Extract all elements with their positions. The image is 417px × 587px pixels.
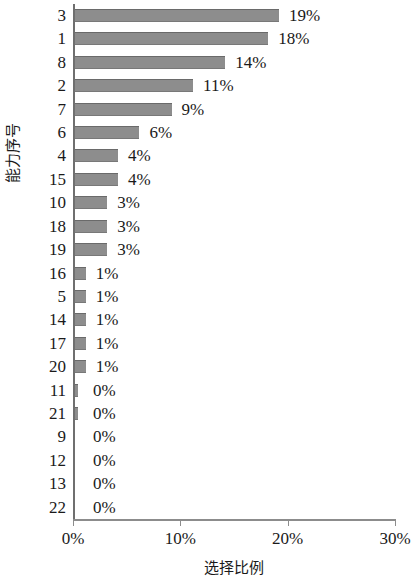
bar-row: 44% xyxy=(73,144,395,167)
x-tick-mark xyxy=(288,519,289,526)
bar-value-label: 0% xyxy=(93,449,116,472)
bar-value-label: 1% xyxy=(96,262,119,285)
bar-value-label: 0% xyxy=(93,379,116,402)
bar-value-label: 1% xyxy=(96,285,119,308)
category-label: 4 xyxy=(2,144,66,167)
category-label: 2 xyxy=(2,74,66,97)
bar-value-label: 6% xyxy=(149,121,172,144)
bar-row: 79% xyxy=(73,98,395,121)
category-label: 11 xyxy=(2,379,66,402)
category-label: 5 xyxy=(2,285,66,308)
bar-row: 814% xyxy=(73,51,395,74)
category-label: 12 xyxy=(2,449,66,472)
bar xyxy=(75,32,268,45)
x-axis-line xyxy=(73,519,395,521)
bar-row: 220% xyxy=(73,496,395,519)
category-label: 19 xyxy=(2,238,66,261)
bar xyxy=(75,9,279,22)
bar xyxy=(75,290,86,303)
bar xyxy=(75,79,193,92)
category-label: 21 xyxy=(2,402,66,425)
bar-row: 171% xyxy=(73,332,395,355)
bar-value-label: 9% xyxy=(182,98,205,121)
bar xyxy=(75,337,86,350)
bar-value-label: 3% xyxy=(117,238,140,261)
bar-row: 211% xyxy=(73,74,395,97)
bar-value-label: 1% xyxy=(96,332,119,355)
bar-row: 161% xyxy=(73,262,395,285)
bar xyxy=(75,220,107,233)
category-label: 16 xyxy=(2,262,66,285)
category-label: 6 xyxy=(2,121,66,144)
category-label: 20 xyxy=(2,355,66,378)
bar-row: 319% xyxy=(73,4,395,27)
category-label: 3 xyxy=(2,4,66,27)
bar-value-label: 4% xyxy=(128,144,151,167)
bar xyxy=(75,149,118,162)
category-label: 15 xyxy=(2,168,66,191)
x-tick-label: 10% xyxy=(145,529,215,549)
bar-row: 210% xyxy=(73,402,395,425)
bar-value-label: 4% xyxy=(128,168,151,191)
bar xyxy=(75,267,86,280)
bar-row: 120% xyxy=(73,449,395,472)
bar-value-label: 0% xyxy=(93,496,116,519)
bar xyxy=(75,103,172,116)
category-label: 1 xyxy=(2,27,66,50)
category-label: 14 xyxy=(2,308,66,331)
bar xyxy=(75,196,107,209)
x-tick-mark xyxy=(180,519,181,526)
bar xyxy=(75,407,78,420)
category-label: 7 xyxy=(2,98,66,121)
bar-value-label: 1% xyxy=(96,355,119,378)
category-label: 22 xyxy=(2,496,66,519)
plot-area: 319%118%814%211%79%66%44%154%103%183%193… xyxy=(73,4,395,519)
bar-row: 90% xyxy=(73,425,395,448)
bar-row: 141% xyxy=(73,308,395,331)
bar-row: 66% xyxy=(73,121,395,144)
category-label: 17 xyxy=(2,332,66,355)
category-label: 10 xyxy=(2,191,66,214)
x-axis-title: 选择比例 xyxy=(73,556,395,577)
bar-value-label: 0% xyxy=(93,472,116,495)
bar-row: 130% xyxy=(73,472,395,495)
category-label: 8 xyxy=(2,51,66,74)
category-label: 13 xyxy=(2,472,66,495)
bar-row: 51% xyxy=(73,285,395,308)
bar-value-label: 11% xyxy=(203,74,234,97)
bar-row: 154% xyxy=(73,168,395,191)
bar-value-label: 0% xyxy=(93,425,116,448)
bar xyxy=(75,173,118,186)
bar-value-label: 3% xyxy=(117,215,140,238)
bar-value-label: 19% xyxy=(289,4,320,27)
bar xyxy=(75,384,78,397)
bar xyxy=(75,360,86,373)
bar-row: 193% xyxy=(73,238,395,261)
bar-value-label: 0% xyxy=(93,402,116,425)
x-tick-label: 0% xyxy=(38,529,108,549)
x-tick-label: 30% xyxy=(360,529,417,549)
x-tick-label: 20% xyxy=(253,529,323,549)
x-tick-mark xyxy=(395,519,396,526)
bar-row: 110% xyxy=(73,379,395,402)
bar-row: 201% xyxy=(73,355,395,378)
bar-row: 118% xyxy=(73,27,395,50)
bar-value-label: 18% xyxy=(278,27,309,50)
x-tick-mark xyxy=(73,519,74,526)
bar-value-label: 3% xyxy=(117,191,140,214)
bar-row: 183% xyxy=(73,215,395,238)
bar-value-label: 14% xyxy=(235,51,266,74)
bar xyxy=(75,56,225,69)
bar xyxy=(75,243,107,256)
category-label: 9 xyxy=(2,425,66,448)
horizontal-bar-chart: 能力序号 319%118%814%211%79%66%44%154%103%18… xyxy=(0,0,417,587)
category-label: 18 xyxy=(2,215,66,238)
bar-row: 103% xyxy=(73,191,395,214)
bar xyxy=(75,126,139,139)
bar xyxy=(75,313,86,326)
bar-value-label: 1% xyxy=(96,308,119,331)
